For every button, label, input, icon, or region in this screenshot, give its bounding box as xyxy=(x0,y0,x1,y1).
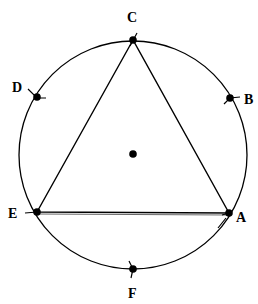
point-a xyxy=(225,209,233,217)
point-d xyxy=(33,93,41,101)
construction-diagram: C D B E A F xyxy=(0,0,258,304)
point-c xyxy=(129,36,137,44)
triangle-cea xyxy=(37,40,229,213)
label-f: F xyxy=(128,286,137,301)
label-e: E xyxy=(8,206,17,221)
center-point xyxy=(129,150,137,158)
point-f xyxy=(129,265,137,273)
point-e xyxy=(33,208,41,216)
label-c: C xyxy=(127,10,137,25)
label-a: A xyxy=(236,210,247,225)
segment-ea-double xyxy=(37,214,229,215)
label-d: D xyxy=(12,80,22,95)
point-b xyxy=(226,94,234,102)
label-b: B xyxy=(244,92,253,107)
